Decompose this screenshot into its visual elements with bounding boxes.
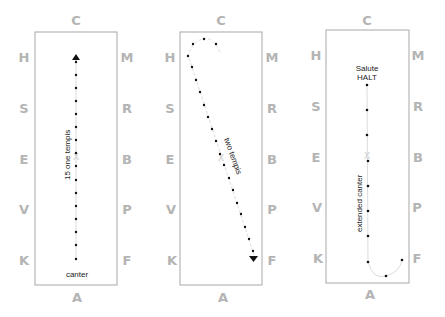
marker-m: M: [121, 50, 134, 65]
marker-v: V: [166, 202, 176, 217]
marker-f: F: [123, 253, 132, 268]
marker-m: M: [412, 48, 425, 63]
marker-h: H: [165, 50, 176, 65]
marker-b: B: [122, 152, 132, 167]
marker-r: R: [267, 101, 277, 116]
marker-f: F: [413, 251, 422, 266]
marker-c: C: [362, 13, 372, 28]
marker-h: H: [19, 50, 30, 65]
marker-r: R: [413, 99, 423, 114]
marker-b: B: [267, 152, 277, 167]
marker-a: A: [365, 287, 375, 302]
marker-v: V: [312, 200, 322, 215]
marker-e: E: [312, 150, 321, 165]
marker-p: P: [412, 200, 422, 215]
marker-r: R: [122, 101, 132, 116]
label-canter: canter: [66, 270, 89, 279]
arena-2-path: [188, 39, 254, 255]
marker-m: M: [266, 50, 279, 65]
dressage-diagram: C A H S E V K M R B P F X: [0, 0, 445, 317]
marker-c: C: [216, 13, 226, 28]
marker-p: P: [267, 202, 277, 217]
marker-e: E: [166, 152, 175, 167]
label-extended-canter: extended canter: [355, 174, 364, 232]
marker-h: H: [311, 48, 322, 63]
label-halt: HALT: [357, 73, 377, 82]
arena-3-path: [367, 85, 402, 277]
marker-k: K: [167, 253, 178, 268]
arena-2-dots: [187, 38, 254, 252]
label-15-one-tempis: 15 one tempis: [63, 130, 72, 180]
marker-k: K: [19, 253, 30, 268]
marker-c: C: [71, 13, 81, 28]
marker-k: K: [313, 251, 324, 266]
marker-s: S: [311, 99, 320, 114]
marker-a: A: [218, 290, 228, 305]
arena-3: C A H S E V K M R B P F X Salute HALT ex…: [311, 13, 425, 302]
marker-p: P: [122, 202, 132, 217]
label-salute: Salute: [356, 64, 379, 73]
marker-a: A: [72, 290, 82, 305]
marker-s: S: [165, 101, 174, 116]
arena-3-dots: [366, 84, 404, 278]
arena-2: C A H S E V K M R B P F X: [165, 13, 279, 305]
marker-b: B: [413, 150, 423, 165]
marker-e: E: [20, 152, 29, 167]
arena-1: C A H S E V K M R B P F X: [19, 13, 134, 305]
marker-s: S: [19, 101, 28, 116]
arrow-down-icon: [249, 256, 258, 262]
marker-f: F: [268, 253, 277, 268]
marker-v: V: [19, 202, 29, 217]
arrow-up-icon: [72, 54, 80, 60]
